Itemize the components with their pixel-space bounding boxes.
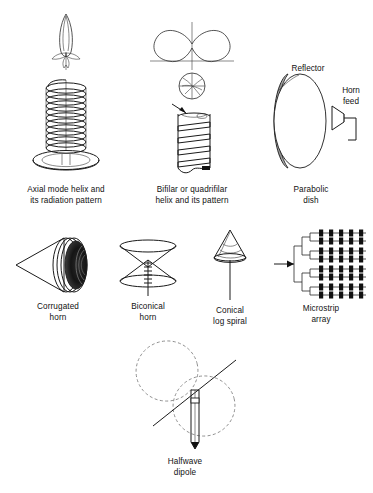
spiral-cone	[214, 230, 246, 262]
label-reflector: Reflector	[278, 64, 338, 75]
figure-item-halfwave-dipole: Halfwave dipole	[112, 338, 258, 478]
corrugated-horn-illustration	[8, 232, 108, 298]
conical-log-spiral-illustration	[190, 226, 270, 302]
caption-biconical-horn: Biconical horn	[104, 301, 192, 323]
dipole-element	[191, 390, 199, 449]
figure-item-parabolic-dish: Parabolic dish	[252, 62, 370, 206]
parabolic-dish-illustration	[252, 62, 370, 180]
dipole-radiation-pattern	[130, 334, 242, 442]
bifilar-helix-illustration	[138, 8, 246, 180]
caption-axial-mode-helix: Axial mode helix and its radiation patte…	[6, 184, 126, 206]
label-horn-feed: Horn feed	[330, 86, 372, 107]
patch-grid	[318, 230, 366, 299]
axial-mode-helix-illustration	[6, 8, 126, 180]
caption-bifilar-helix: Bifilar or quadrifilar helix and its pat…	[138, 184, 246, 206]
caption-conical-log-spiral: Conical log spiral	[190, 305, 270, 327]
biconical-horn-illustration	[104, 236, 192, 298]
cross-section-view	[179, 73, 205, 99]
feed-input-arrow	[274, 261, 294, 268]
figure-item-corrugated-horn: Corrugated horn	[8, 232, 108, 323]
figure-item-biconical-horn: Biconical horn	[104, 236, 192, 323]
caption-microstrip-array: Microstrip array	[272, 303, 370, 325]
figure-item-axial-mode-helix: Axial mode helix and its radiation patte…	[6, 8, 126, 206]
figure-item-conical-log-spiral: Conical log spiral	[190, 226, 270, 327]
caption-halfwave-dipole: Halfwave dipole	[112, 456, 258, 478]
halfwave-dipole-illustration	[112, 338, 258, 454]
radiation-lobe	[52, 14, 80, 70]
figure-item-bifilar-quadrifilar-helix: Bifilar or quadrifilar helix and its pat…	[138, 8, 246, 206]
caption-parabolic-dish: Parabolic dish	[252, 184, 370, 206]
reflector-dish	[274, 74, 326, 168]
caption-corrugated-horn: Corrugated horn	[8, 301, 108, 323]
ground-plane	[33, 151, 99, 171]
figure-item-microstrip-array: Microstrip array	[272, 228, 370, 325]
corporate-feed-network	[294, 233, 318, 295]
antenna-types-figure: Axial mode helix and its radiation patte…	[0, 0, 373, 493]
square-helix	[178, 113, 210, 173]
helix-coil	[46, 80, 86, 153]
kidney-radiation-pattern	[150, 22, 234, 70]
horn-aperture	[65, 241, 87, 289]
microstrip-array-illustration	[272, 228, 370, 300]
pattern-axis-line	[153, 360, 236, 426]
feed-arrow	[172, 104, 186, 113]
horn-feed-element	[332, 106, 356, 140]
